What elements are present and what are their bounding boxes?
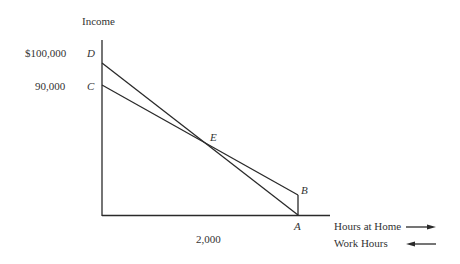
arrow-right-icon (406, 225, 436, 230)
y-axis-label: Income (82, 15, 115, 27)
legend-hours-at-home: Hours at Home (334, 220, 401, 232)
y-tick-100000: $100,000 (25, 47, 66, 59)
x-tick-2000: 2,000 (196, 233, 221, 245)
point-label-B: B (301, 184, 308, 196)
y-tick-90000: 90,000 (35, 80, 65, 92)
line-CB (102, 85, 298, 195)
legend-work-hours: Work Hours (334, 237, 388, 249)
point-label-E: E (210, 131, 217, 143)
point-label-C: C (87, 80, 94, 92)
point-label-D: D (87, 47, 95, 59)
arrow-left-icon (406, 242, 436, 247)
point-label-A: A (294, 220, 301, 232)
line-DA (102, 63, 298, 215)
